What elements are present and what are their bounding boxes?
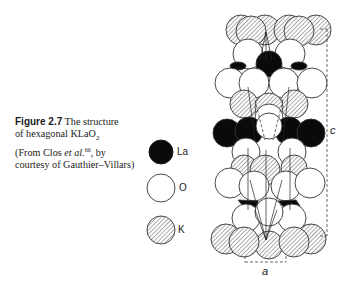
legend-label-la: La xyxy=(177,146,188,157)
figure-caption: Figure 2.7 The structure of hexagonal KL… xyxy=(15,116,165,171)
figure-label: Figure 2.7 xyxy=(15,116,62,127)
legend-label-k: K xyxy=(178,224,185,235)
caption-line3-post: , by xyxy=(91,147,106,158)
legend-label-o: O xyxy=(179,182,187,193)
caption-line2-subscript: 2 xyxy=(96,134,100,142)
caption-line3-pre: (From Clos xyxy=(15,147,64,158)
a-axis-label: a xyxy=(262,265,268,277)
caption-line3-italic: et al. xyxy=(64,147,84,158)
c-axis-label: c xyxy=(330,124,336,136)
caption-line2: of hexagonal KLaO xyxy=(15,128,96,139)
caption-line4: courtesy of Gauthier–Villars) xyxy=(15,159,134,170)
legend-o-icon xyxy=(147,174,175,202)
legend-k-icon xyxy=(147,216,175,244)
caption-line1: The structure xyxy=(62,116,118,127)
